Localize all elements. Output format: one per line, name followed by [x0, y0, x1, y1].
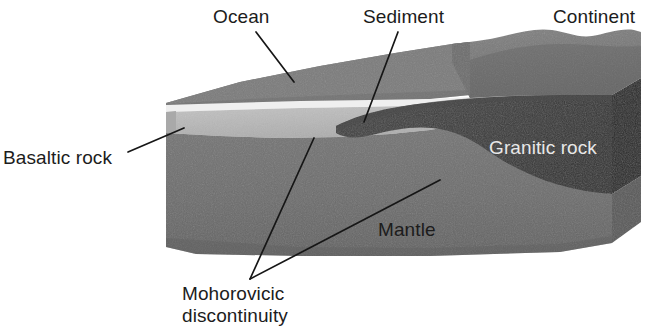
- label-granitic-rock: Granitic rock: [489, 137, 597, 158]
- label-basaltic-rock: Basaltic rock: [3, 147, 112, 168]
- label-moho-line2: discontinuity: [182, 305, 288, 326]
- label-continent: Continent: [553, 6, 635, 27]
- label-ocean: Ocean: [213, 6, 269, 27]
- label-sediment: Sediment: [363, 6, 444, 27]
- leader-line-ocean: [256, 32, 294, 82]
- label-moho-line1: Mohorovicic: [182, 283, 284, 304]
- continent-layer: [452, 29, 641, 98]
- granitic-rock-right-side-face: [612, 78, 641, 194]
- block-diagram-figure: Ocean Sediment Continent Basaltic rock G…: [0, 0, 667, 327]
- label-mantle: Mantle: [378, 219, 436, 240]
- label-moho-discontinuity: Mohorovicic discontinuity: [182, 283, 382, 327]
- basaltic-rock-left-face: [166, 111, 176, 133]
